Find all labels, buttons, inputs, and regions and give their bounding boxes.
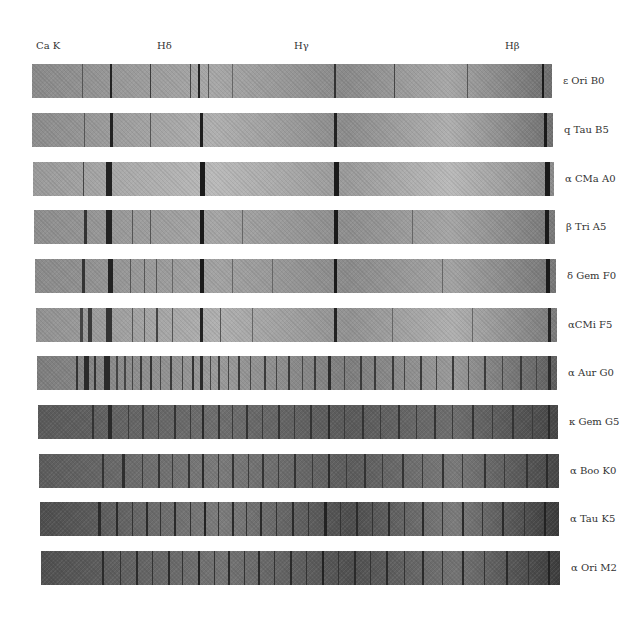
absorption-line	[482, 502, 483, 536]
absorption-line	[468, 356, 469, 390]
absorption-line	[302, 356, 303, 390]
absorption-line	[272, 259, 273, 293]
absorption-line	[242, 210, 243, 244]
absorption-line	[108, 405, 112, 439]
absorption-line	[546, 454, 548, 488]
absorption-line	[146, 502, 148, 536]
absorption-line	[334, 210, 338, 244]
line-label: Hβ	[505, 40, 520, 51]
absorption-line	[124, 356, 126, 390]
absorption-line	[288, 356, 290, 390]
absorption-line	[120, 551, 121, 585]
absorption-line	[340, 502, 341, 536]
absorption-line	[404, 551, 405, 585]
absorption-line	[422, 502, 424, 536]
absorption-line	[290, 551, 292, 585]
absorption-line	[422, 454, 423, 488]
absorption-line	[150, 210, 151, 244]
absorption-line	[360, 356, 362, 390]
absorption-line	[434, 405, 436, 439]
absorption-line	[258, 551, 260, 585]
absorption-line	[278, 454, 279, 488]
spectrum-strip	[38, 405, 558, 439]
absorption-line	[532, 405, 533, 439]
absorption-line	[200, 259, 204, 293]
absorption-line	[344, 405, 345, 439]
absorption-line	[546, 259, 550, 293]
absorption-line	[388, 502, 390, 536]
absorption-line	[528, 551, 529, 585]
absorption-line	[142, 405, 144, 439]
absorption-line	[192, 356, 194, 390]
spectrum-strip	[39, 454, 559, 488]
absorption-line	[82, 259, 85, 293]
absorption-line	[506, 551, 508, 585]
absorption-line	[218, 356, 220, 390]
spectrum-strip	[32, 113, 553, 147]
absorption-line	[244, 551, 245, 585]
absorption-line	[274, 551, 275, 585]
absorption-line	[150, 64, 151, 98]
absorption-line	[545, 162, 550, 196]
absorption-line	[310, 405, 312, 439]
absorption-line	[402, 454, 404, 488]
absorption-line	[168, 551, 170, 585]
spectrum-strip	[37, 356, 557, 390]
absorption-line	[204, 502, 206, 536]
absorption-line	[374, 356, 376, 390]
absorption-line	[472, 405, 474, 439]
absorption-line	[248, 454, 249, 488]
absorption-line	[362, 405, 364, 439]
absorption-line	[392, 356, 394, 390]
absorption-line	[172, 454, 173, 488]
absorption-line	[452, 405, 453, 439]
absorption-line	[82, 64, 83, 98]
star-label: δ Gem F0	[567, 270, 616, 281]
absorption-line	[200, 356, 203, 390]
absorption-line	[312, 454, 313, 488]
absorption-line	[264, 356, 266, 390]
absorption-line	[520, 356, 522, 390]
absorption-line	[260, 502, 262, 536]
absorption-line	[294, 454, 296, 488]
absorption-line	[338, 551, 339, 585]
spectrum-strip	[36, 308, 557, 342]
absorption-line	[238, 356, 240, 390]
absorption-line	[252, 308, 253, 342]
absorption-line	[380, 405, 381, 439]
absorption-line	[128, 405, 129, 439]
absorption-line	[308, 502, 309, 536]
star-label: α Boo K0	[570, 465, 616, 476]
absorption-line	[144, 308, 145, 342]
absorption-line	[548, 308, 551, 342]
absorption-line	[84, 210, 87, 244]
absorption-line	[354, 551, 356, 585]
absorption-line	[328, 454, 330, 488]
absorption-line	[198, 64, 200, 98]
absorption-line	[250, 356, 251, 390]
absorption-line	[92, 405, 94, 439]
absorption-line	[102, 454, 104, 488]
absorption-line	[442, 502, 443, 536]
absorption-line	[132, 210, 133, 244]
absorption-line	[484, 551, 485, 585]
absorption-line	[214, 551, 215, 585]
absorption-line	[116, 502, 118, 536]
absorption-line	[94, 356, 96, 390]
absorption-line	[334, 113, 337, 147]
absorption-line	[292, 502, 294, 536]
absorption-line	[524, 502, 525, 536]
absorption-line	[262, 405, 263, 439]
absorption-line	[108, 259, 113, 293]
star-label: β Tri A5	[566, 221, 606, 232]
absorption-line	[544, 113, 547, 147]
star-label: α Aur G0	[568, 367, 614, 378]
absorption-line	[122, 454, 125, 488]
absorption-line	[98, 502, 101, 536]
absorption-line	[210, 356, 211, 390]
absorption-line	[372, 502, 373, 536]
absorption-line	[88, 308, 92, 342]
star-label: α CMa A0	[565, 173, 616, 184]
absorption-line	[334, 308, 337, 342]
absorption-line	[200, 308, 203, 342]
